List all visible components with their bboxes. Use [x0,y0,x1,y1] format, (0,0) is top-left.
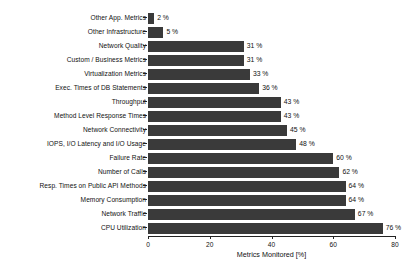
category-label: Network Traffic [101,207,146,221]
bar-value-label: 31 % [247,39,263,53]
category-tick [143,185,147,186]
category-tick [143,143,147,144]
bar-rows: Other App. Metrics2 %Other Infrastructur… [0,11,417,235]
category-tick [143,45,147,46]
bar-track [148,111,395,122]
category-tick [143,213,147,214]
bar [148,153,333,164]
bar-row: Network Connectivity45 % [0,123,417,137]
bar [148,55,244,66]
x-axis-tick [148,236,149,239]
bar-track [148,27,395,38]
bar-track [148,69,395,80]
bar [148,69,250,80]
bar-track [148,167,395,178]
bar-row: Network Traffic67 % [0,207,417,221]
bar [148,41,244,52]
x-axis-tick [210,236,211,239]
x-axis-title: Metrics Monitored [%] [148,250,395,259]
bar-row: Method Level Response Times43 % [0,109,417,123]
category-tick [143,129,147,130]
bar-value-label: 48 % [299,137,315,151]
bar-row: CPU Utilization76 % [0,221,417,235]
bar [148,97,281,108]
category-tick [143,115,147,116]
bar-value-label: 2 % [157,11,169,25]
bar-value-label: 43 % [284,95,300,109]
bar-row: Virtualization Metrics33 % [0,67,417,81]
bar-track [148,41,395,52]
category-label: Memory Consumption [81,193,146,207]
bar [148,181,346,192]
bar-value-label: 62 % [342,165,358,179]
bar-value-label: 64 % [349,193,365,207]
bar-row: Network Quality31 % [0,39,417,53]
x-axis-tick-label: 80 [391,241,398,248]
category-label: Virtualization Metrics [84,67,146,81]
bar-row: Throughput43 % [0,95,417,109]
category-label: Failure Rate [109,151,146,165]
bar [148,223,383,234]
bar [148,27,163,38]
bar-track [148,55,395,66]
bar-row: Memory Consumption64 % [0,193,417,207]
bar-row: Number of Calls62 % [0,165,417,179]
category-tick [143,31,147,32]
category-tick [143,227,147,228]
bar-value-label: 36 % [262,81,278,95]
category-label: IOPS, I/O Latency and I/O Usage [47,137,146,151]
category-label: Network Connectivity [83,123,146,137]
bar [148,83,259,94]
category-tick [143,101,147,102]
category-label: Throughput [112,95,146,109]
bar [148,139,296,150]
bar-row: Other Infrastructure5 % [0,25,417,39]
bar-value-label: 64 % [349,179,365,193]
bar-row: IOPS, I/O Latency and I/O Usage48 % [0,137,417,151]
category-tick [143,73,147,74]
bar-value-label: 31 % [247,53,263,67]
bar-value-label: 60 % [336,151,352,165]
bar-track [148,125,395,136]
category-tick [143,199,147,200]
bar-track [148,153,395,164]
bar-row: Resp. Times on Public API Methods64 % [0,179,417,193]
x-axis-tick [272,236,273,239]
bar-value-label: 5 % [166,25,178,39]
bar-chart: Other App. Metrics2 %Other Infrastructur… [0,0,417,270]
bar [148,209,355,220]
category-label: Resp. Times on Public API Methods [40,179,146,193]
x-axis-tick [395,236,396,239]
bar [148,167,339,178]
category-tick [143,59,147,60]
bar [148,111,281,122]
category-label: Custom / Business Metrics [67,53,146,67]
category-label: Exec. Times of DB Statements [55,81,146,95]
category-tick [143,171,147,172]
x-axis-tick-label: 60 [330,241,337,248]
x-axis-tick-label: 0 [146,241,150,248]
bar-row: Other App. Metrics2 % [0,11,417,25]
x-axis-tick [333,236,334,239]
plot-area: Other App. Metrics2 %Other Infrastructur… [0,0,417,270]
bar-track [148,223,395,234]
bar-track [148,139,395,150]
category-label: CPU Utilization [101,221,146,235]
bar-value-label: 33 % [253,67,269,81]
bar-value-label: 76 % [386,221,402,235]
bar [148,13,154,24]
category-tick [143,157,147,158]
category-label: Number of Calls [98,165,146,179]
bar-row: Custom / Business Metrics31 % [0,53,417,67]
x-axis-tick-label: 40 [268,241,275,248]
bar-value-label: 43 % [284,109,300,123]
category-label: Method Level Response Times [54,109,146,123]
bar-track [148,13,395,24]
category-tick [143,87,147,88]
bar-value-label: 67 % [358,207,374,221]
bar [148,125,287,136]
x-axis-tick-label: 20 [206,241,213,248]
category-label: Other Infrastructure [88,25,146,39]
category-tick [143,17,147,18]
bar-value-label: 45 % [290,123,306,137]
